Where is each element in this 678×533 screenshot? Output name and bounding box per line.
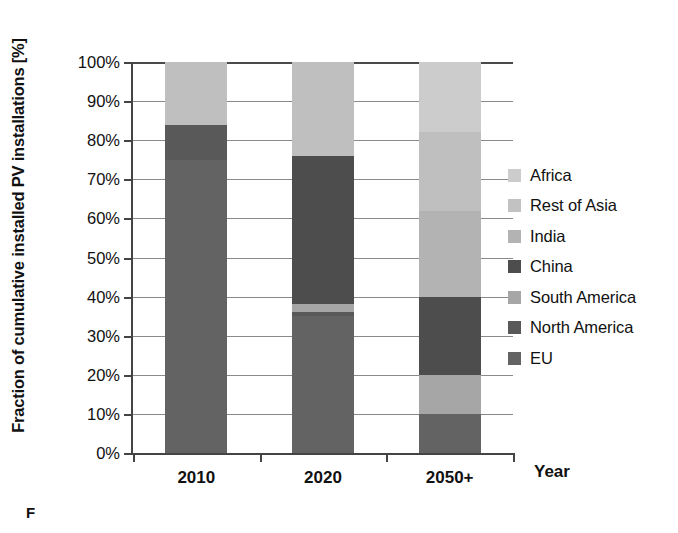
y-axis-tick xyxy=(124,62,133,64)
bar-2050plus[interactable] xyxy=(419,62,481,453)
plot-area: 0%10%20%30%40%50%60%70%80%90%100% 201020… xyxy=(131,62,513,455)
legend-item-china[interactable]: China xyxy=(508,252,674,283)
legend-swatch-icon xyxy=(508,230,521,243)
y-axis-tick-label: 100% xyxy=(78,53,120,72)
y-axis-tick xyxy=(124,258,133,260)
bar-segment-eu[interactable] xyxy=(292,316,354,453)
x-axis-tick xyxy=(260,453,262,462)
bar-segment-india[interactable] xyxy=(419,211,481,297)
legend-swatch-icon xyxy=(508,321,521,334)
legend-item-eu[interactable]: EU xyxy=(508,343,674,374)
y-axis-tick-label: 10% xyxy=(87,404,120,423)
bar-segment-africa[interactable] xyxy=(419,62,481,132)
y-axis-tick xyxy=(124,375,133,377)
x-axis-title: Year xyxy=(534,462,570,482)
y-axis-tick-label: 20% xyxy=(87,365,120,384)
legend-swatch-icon xyxy=(508,169,521,182)
x-axis-tick xyxy=(386,453,388,462)
y-axis-tick xyxy=(124,453,133,455)
x-axis-tick-label: 2050+ xyxy=(426,468,474,488)
legend-swatch-icon xyxy=(508,260,521,273)
legend-item-rest-of-asia[interactable]: Rest of Asia xyxy=(508,191,674,222)
y-axis-tick-label: 80% xyxy=(87,131,120,150)
x-axis-tick-label: 2010 xyxy=(177,468,215,488)
bar-segment-south-america[interactable] xyxy=(292,304,354,312)
y-axis-tick xyxy=(124,336,133,338)
y-axis-tick xyxy=(124,140,133,142)
y-axis-tick-label: 70% xyxy=(87,170,120,189)
legend-swatch-icon xyxy=(508,199,521,212)
y-axis-tick xyxy=(124,218,133,220)
legend-item-label: China xyxy=(530,257,573,276)
legend-swatch-icon xyxy=(508,291,521,304)
bar-segment-eu[interactable] xyxy=(165,160,227,453)
bar-2020[interactable] xyxy=(292,62,354,453)
legend-item-label: EU xyxy=(530,349,553,368)
legend-item-label: South America xyxy=(530,288,636,307)
y-axis-tick xyxy=(124,179,133,181)
bar-segment-eu[interactable] xyxy=(419,414,481,453)
y-axis-title-text: Fraction of cumulative installed PV inst… xyxy=(9,38,28,433)
bar-segment-rest-of-asia[interactable] xyxy=(165,62,227,125)
legend-item-label: Africa xyxy=(530,166,572,185)
legend-item-label: North America xyxy=(530,318,633,337)
y-axis-tick xyxy=(124,101,133,103)
x-axis-tick xyxy=(133,453,135,462)
y-axis-title: Fraction of cumulative installed PV inst… xyxy=(0,0,36,470)
x-axis-tick xyxy=(513,453,515,462)
bar-segment-rest-of-asia[interactable] xyxy=(419,132,481,210)
chart-figure: Fraction of cumulative installed PV inst… xyxy=(0,0,678,533)
y-axis-tick-label: 90% xyxy=(87,92,120,111)
figure-caption: F xyxy=(26,504,35,518)
legend-item-india[interactable]: India xyxy=(508,221,674,252)
legend-item-north-america[interactable]: North America xyxy=(508,313,674,344)
legend-swatch-icon xyxy=(508,352,521,365)
bar-segment-south-america[interactable] xyxy=(419,375,481,414)
y-axis-tick-label: 0% xyxy=(96,444,120,463)
legend-item-south-america[interactable]: South America xyxy=(508,282,674,313)
legend-item-label: India xyxy=(530,227,565,246)
bar-segment-rest-of-asia[interactable] xyxy=(292,62,354,156)
legend-item-africa[interactable]: Africa xyxy=(508,160,674,191)
bar-segment-china[interactable] xyxy=(292,156,354,305)
chart-legend: AfricaRest of AsiaIndiaChinaSouth Americ… xyxy=(508,160,674,374)
y-axis-tick-label: 60% xyxy=(87,209,120,228)
bar-segment-china[interactable] xyxy=(419,297,481,375)
bar-2010[interactable] xyxy=(165,62,227,453)
y-axis-tick-label: 30% xyxy=(87,326,120,345)
legend-item-label: Rest of Asia xyxy=(530,196,617,215)
y-axis-tick xyxy=(124,414,133,416)
y-axis-tick-label: 40% xyxy=(87,287,120,306)
bar-segment-north-america[interactable] xyxy=(165,125,227,160)
y-axis-tick xyxy=(124,297,133,299)
bar-segment-north-america[interactable] xyxy=(292,312,354,316)
y-axis-tick-label: 50% xyxy=(87,248,120,267)
x-axis-tick-label: 2020 xyxy=(304,468,342,488)
